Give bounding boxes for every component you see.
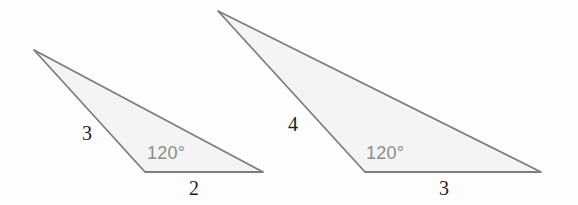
small-triangle-base-label: 2 xyxy=(189,178,199,198)
large-triangle-angle-label: 120° xyxy=(366,144,404,162)
large-triangle-base-label: 3 xyxy=(439,178,449,198)
similar-triangles-diagram: 3 2 120° 4 3 120° xyxy=(0,0,578,205)
small-triangle-angle-label: 120° xyxy=(147,144,185,162)
triangles-canvas xyxy=(0,0,578,205)
large-triangle-left-side-label: 4 xyxy=(288,114,298,134)
small-triangle-left-side-label: 3 xyxy=(82,123,92,143)
